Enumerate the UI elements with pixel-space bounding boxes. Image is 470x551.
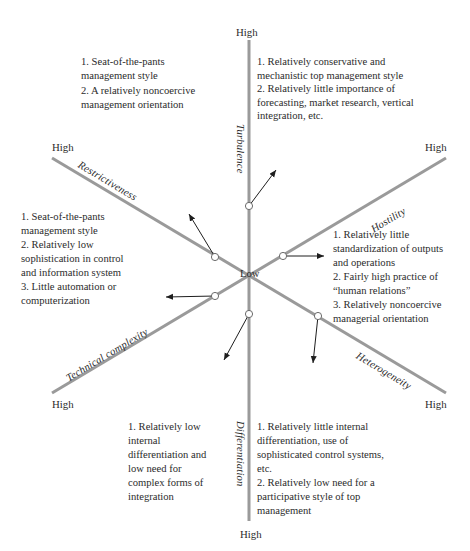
turbulence-high-notes: 1. Relatively conservative and mechanist…	[257, 55, 432, 123]
note-item: 2. Relatively little importance of forec…	[257, 82, 432, 123]
heterogeneity-point	[314, 312, 321, 319]
note-item: 1. Relatively little internal differenti…	[257, 420, 397, 476]
differentiation-high-label: High	[240, 528, 262, 540]
restrictiveness-point	[211, 253, 218, 260]
note-item: 2. A relatively noncoercive management o…	[81, 84, 216, 111]
differentiation-low-notes: 1. Relatively low internal differentiati…	[128, 420, 213, 504]
turbulence-arrow	[249, 170, 276, 206]
hostility-high-label: High	[425, 141, 447, 153]
restrictiveness-arrow	[189, 214, 215, 257]
note-item: 2. Relatively low need for a participati…	[257, 476, 397, 518]
note-item: 2. Relatively low sophistication in cont…	[21, 238, 131, 280]
heterogeneity-high-label: High	[425, 398, 447, 410]
differentiation-axis-label: Differentiation	[235, 421, 246, 487]
differentiation-point	[245, 310, 252, 317]
heterogeneity-arrow	[313, 316, 318, 363]
turbulence-high-label: High	[236, 26, 258, 38]
note-item: 1. Seat-of-the-pants management style	[81, 55, 216, 82]
technical-complexity-high-label: High	[52, 398, 74, 410]
technical-complexity-point	[211, 292, 218, 299]
note-item: 1. Relatively low internal differentiati…	[128, 420, 213, 504]
differentiation-arrow	[224, 314, 249, 360]
note-item: 3. Relatively noncoercive managerial ori…	[333, 298, 453, 326]
note-item: 3. Little automation or computerization	[21, 280, 131, 308]
turbulence-point	[245, 202, 252, 209]
turbulence-low-notes: 1. Seat-of-the-pants management style 2.…	[81, 55, 216, 111]
restrictiveness-high-label: High	[52, 141, 74, 153]
technical-complexity-arrow	[166, 296, 215, 297]
restrictiveness-notes: 1. Seat-of-the-pants management style 2.…	[21, 210, 131, 308]
note-item: 1. Seat-of-the-pants management style	[21, 210, 131, 238]
center-low-label: Low	[240, 268, 259, 279]
differentiation-high-notes: 1. Relatively little internal differenti…	[257, 420, 397, 518]
turbulence-axis-label: Turbulence	[235, 124, 246, 174]
hostility-notes: 1. Relatively little standardization of …	[333, 228, 453, 326]
note-item: 1. Relatively conservative and mechanist…	[257, 55, 432, 82]
note-item: 2. Fairly high practice of “human relati…	[333, 270, 453, 298]
note-item: 1. Relatively little standardization of …	[333, 228, 453, 270]
hostility-point	[279, 252, 286, 259]
